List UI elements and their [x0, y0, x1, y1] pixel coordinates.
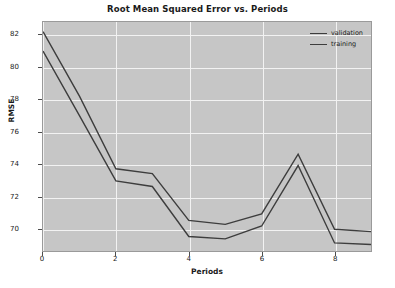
- legend-line-swatch: [310, 44, 327, 45]
- legend-label: validation: [331, 28, 363, 39]
- y-tick-label: 74: [0, 160, 19, 168]
- series-line-validation: [43, 32, 371, 232]
- y-tick-label: 78: [0, 95, 19, 103]
- legend-item-training[interactable]: training: [310, 39, 363, 50]
- x-tick-label: 6: [252, 255, 272, 263]
- legend-label: training: [331, 39, 356, 50]
- y-tick-label: 76: [0, 128, 19, 136]
- y-tick-label: 72: [0, 193, 19, 201]
- x-tick-mark: [189, 252, 190, 256]
- data-series-layer: [43, 22, 371, 251]
- x-tick-mark: [42, 252, 43, 256]
- series-line-training: [43, 51, 371, 245]
- y-tick-label: 82: [0, 30, 19, 38]
- legend-line-swatch: [310, 33, 327, 34]
- chart-legend: validationtraining: [307, 25, 367, 53]
- plot-area: validationtraining: [42, 21, 372, 252]
- chart-title: Root Mean Squared Error vs. Periods: [0, 4, 395, 14]
- chart-figure: Root Mean Squared Error vs. Periods RMSE…: [0, 0, 395, 288]
- x-axis-label: Periods: [42, 267, 372, 276]
- x-tick-mark: [115, 252, 116, 256]
- y-tick-label: 70: [0, 225, 19, 233]
- x-tick-label: 4: [179, 255, 199, 263]
- legend-item-validation[interactable]: validation: [310, 28, 363, 39]
- x-tick-mark: [262, 252, 263, 256]
- x-tick-label: 2: [105, 255, 125, 263]
- y-tick-label: 80: [0, 63, 19, 71]
- x-tick-label: 8: [325, 255, 345, 263]
- x-tick-mark: [335, 252, 336, 256]
- x-tick-label: 0: [32, 255, 52, 263]
